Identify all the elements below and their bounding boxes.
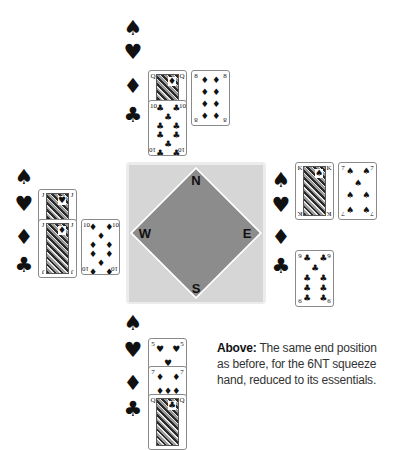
- jack-face-art: ♦: [46, 223, 69, 274]
- east-diamond-icon: ♦: [270, 226, 292, 248]
- pips: ♠♠ ♠ ♠♠ ♠♠: [346, 166, 369, 216]
- direction-east: E: [239, 227, 255, 241]
- card-east-king-spades: K K K K ♠: [295, 162, 334, 220]
- south-club-icon: ♣: [122, 398, 144, 420]
- north-diamond-icon: ♦: [122, 75, 144, 97]
- card-west-jack-diamonds: J J J J ♦: [38, 219, 77, 278]
- south-heart-icon: ♥: [122, 339, 144, 361]
- card-north-eight-diamonds: 8 8 8 8 ♦♦ ♦♦ ♦♦ ♦♦: [191, 70, 230, 126]
- figure-caption: Above: The same end position as before, …: [217, 340, 392, 388]
- king-face-art: ♠: [303, 166, 326, 216]
- north-club-icon: ♣: [122, 104, 144, 126]
- east-heart-icon: ♥: [270, 194, 292, 216]
- card-east-seven-spades: 7 7 7 7 ♠♠ ♠ ♠♠ ♠♠: [338, 162, 377, 220]
- north-heart-icon: ♥: [122, 41, 144, 63]
- card-west-ten-diamonds: 10 10 10 10 ♦♦ ♦ ♦♦ ♦♦ ♦ ♦♦: [81, 219, 120, 275]
- south-spade-icon: ♠: [122, 312, 144, 334]
- caption-label: Above:: [217, 341, 256, 355]
- west-spade-icon: ♠: [13, 166, 35, 188]
- pips: ♦♦ ♦♦ ♦♦ ♦♦: [199, 74, 222, 122]
- east-spade-icon: ♠: [270, 169, 292, 191]
- pips: ♣♣ ♣ ♣♣ ♣♣ ♣♣: [303, 254, 326, 303]
- direction-south: S: [188, 282, 204, 296]
- queen-face-art: ♣: [156, 398, 179, 446]
- west-club-icon: ♣: [13, 254, 35, 276]
- direction-north: N: [188, 174, 204, 188]
- south-diamond-icon: ♦: [122, 372, 144, 394]
- pips: ♣♣ ♣ ♣♣ ♣♣ ♣ ♣♣: [156, 104, 179, 152]
- east-club-icon: ♣: [270, 255, 292, 277]
- direction-west: W: [137, 227, 153, 241]
- card-east-nine-clubs: 9 9 9 9 ♣♣ ♣ ♣♣ ♣♣ ♣♣: [295, 250, 334, 307]
- north-spade-icon: ♠: [122, 17, 144, 39]
- card-south-queen-clubs: Q Q ♣: [148, 394, 187, 450]
- pips: ♦♦ ♦ ♦♦ ♦♦ ♦ ♦♦: [89, 223, 112, 271]
- card-north-ten-clubs: 10 10 10 10 ♣♣ ♣ ♣♣ ♣♣ ♣ ♣♣: [148, 100, 187, 156]
- west-heart-icon: ♥: [13, 193, 35, 215]
- west-diamond-icon: ♦: [13, 226, 35, 248]
